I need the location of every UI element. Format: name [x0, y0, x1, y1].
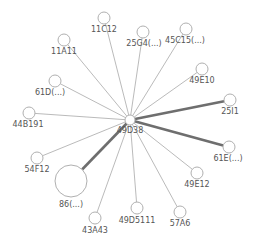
node-circle[interactable] — [23, 107, 35, 119]
node-circle[interactable] — [223, 141, 235, 153]
node-circle[interactable] — [131, 202, 143, 214]
node-label: 25I1 — [221, 107, 239, 116]
node-43a43[interactable]: 43A43 — [82, 212, 108, 235]
node-label: 54F12 — [25, 165, 50, 174]
node-circle[interactable] — [174, 206, 186, 218]
node-label: 45C15(...) — [165, 36, 205, 45]
node-circle[interactable] — [137, 26, 149, 38]
node-11a11[interactable]: 11A11 — [51, 34, 77, 56]
node-label: 61E(...) — [213, 154, 242, 163]
node-circle[interactable] — [49, 75, 61, 87]
node-label: 11A11 — [51, 47, 77, 56]
node-11c12[interactable]: 11C12 — [91, 12, 117, 34]
node-label: 44B191 — [13, 120, 44, 129]
node-label: 49E12 — [184, 180, 209, 189]
node-circle[interactable] — [191, 167, 203, 179]
node-label: 57A6 — [170, 219, 191, 228]
node-circle[interactable] — [224, 94, 236, 106]
node-label: 49E10 — [189, 76, 214, 85]
node-61d[interactable]: 61D(...) — [35, 75, 65, 97]
edge-61d — [60, 84, 130, 120]
node-circle[interactable] — [58, 34, 70, 46]
node-circle[interactable] — [196, 63, 208, 75]
node-circle[interactable] — [89, 212, 101, 224]
node-44b191[interactable]: 44B191 — [13, 107, 44, 129]
hub-node-label: 49D38 — [117, 126, 144, 135]
edge-25g4 — [130, 38, 142, 120]
node-label: 49D5111 — [119, 216, 156, 225]
node-label: 25G4(...) — [126, 39, 161, 48]
node-label: 43A43 — [82, 226, 108, 235]
node-25i1[interactable]: 25I1 — [221, 94, 239, 116]
hub-node-circle[interactable] — [125, 115, 135, 125]
node-25g4[interactable]: 25G4(...) — [126, 26, 161, 48]
edge-44b191 — [35, 113, 130, 120]
network-graph: 11C1211A1125G4(...)45C15(...)49E1025I161… — [0, 0, 256, 245]
node-49e12[interactable]: 49E12 — [184, 167, 209, 189]
node-circle[interactable] — [31, 152, 43, 164]
node-circle[interactable] — [180, 23, 192, 35]
node-86[interactable]: 86(...) — [55, 165, 87, 209]
node-49e10[interactable]: 49E10 — [189, 63, 214, 85]
edge-25i1 — [130, 101, 224, 120]
node-circle[interactable] — [98, 12, 110, 24]
node-57a6[interactable]: 57A6 — [170, 206, 191, 228]
node-circle[interactable] — [55, 165, 87, 197]
node-label: 86(...) — [59, 200, 83, 209]
node-label: 11C12 — [91, 25, 117, 34]
node-label: 61D(...) — [35, 88, 65, 97]
node-45c15[interactable]: 45C15(...) — [165, 23, 205, 45]
node-54f12[interactable]: 54F12 — [25, 152, 50, 174]
edge-61e — [130, 120, 223, 145]
node-49d5111[interactable]: 49D5111 — [119, 202, 156, 225]
